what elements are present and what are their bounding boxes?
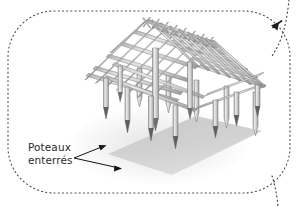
post [224, 86, 229, 128]
figure-canvas: Poteaux enterrés [0, 0, 299, 207]
callout-label-line-2: enterrés [28, 154, 73, 167]
bottom-right-pointer [272, 176, 278, 207]
callout-label-line-1: Poteaux [28, 141, 73, 154]
post [118, 66, 123, 102]
ground-shadow [66, 105, 262, 185]
house-frame-illustration [0, 0, 299, 207]
post [194, 80, 199, 122]
post-ridge-support [188, 62, 193, 119]
callout-label: Poteaux enterrés [28, 141, 73, 166]
roof-lattice [85, 17, 266, 102]
rafter-set-rear [148, 20, 263, 89]
post [234, 92, 239, 126]
